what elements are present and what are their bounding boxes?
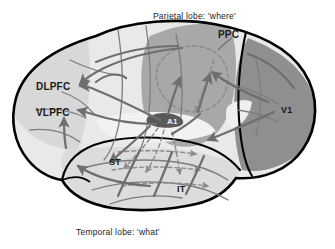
v1-label: V1: [281, 106, 292, 115]
parietal-lobe-caption: Parietal lobe: 'where': [153, 12, 236, 21]
brain-diagram-figure: Parietal lobe: 'where' PPC V1 DLPFC VLPF…: [0, 0, 335, 249]
st-label: ST: [109, 158, 121, 167]
temporal-lobe-caption: Temporal lobe: 'what': [76, 228, 160, 237]
vlpfc-label: VLPFC: [36, 108, 70, 118]
ppc-label: PPC: [218, 30, 239, 40]
a1-label: A1: [167, 118, 178, 126]
dlpfc-label: DLPFC: [36, 82, 70, 92]
it-label: IT: [177, 185, 185, 194]
